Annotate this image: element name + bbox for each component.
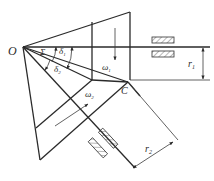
omega2-label: ω2 [85,89,94,100]
r2-dimension: r2 [128,82,178,168]
gear-2 [23,47,140,160]
omega1-label: ω1 [102,62,111,73]
r1-label: r1 [188,58,195,70]
r2-label: r2 [145,143,152,155]
pitch-point-label: C [121,85,128,96]
delta1-label: δ1 [59,46,66,57]
shaft-angle-label: Σ [39,47,46,57]
bevel-gear-diagram: r1 r2 O C Σ δ1 δ2 ω1 ω2 [0,0,214,181]
gear2-outer-face [40,82,128,160]
delta2-label: δ2 [54,64,61,75]
apex-label: O [8,44,17,58]
bearing-2 [88,128,118,158]
gear2-outer-cone-edge [23,47,40,160]
gear1-top-cone-edge [23,12,130,47]
